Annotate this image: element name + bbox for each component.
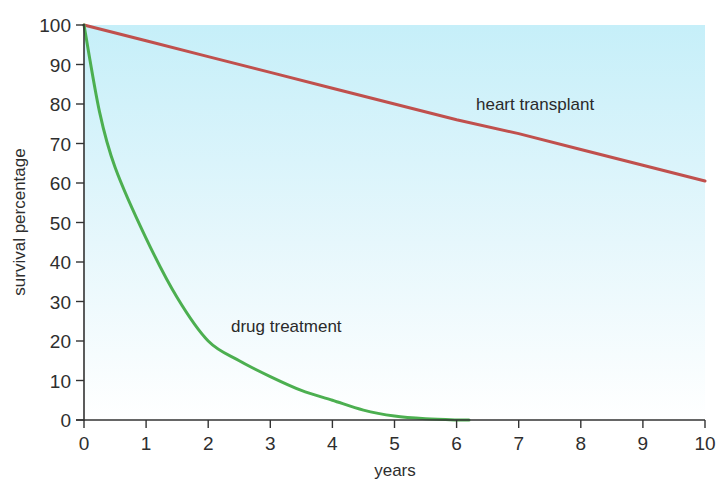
x-tick-label: 9 <box>638 433 649 454</box>
x-axis-title: years <box>374 461 416 480</box>
y-tick-label: 90 <box>50 55 71 76</box>
survival-chart: 0102030405060708090100012345678910 heart… <box>0 0 721 501</box>
y-tick-label: 60 <box>50 173 71 194</box>
x-tick-label: 5 <box>389 433 400 454</box>
y-axis-title: survival percentage <box>10 148 29 295</box>
y-tick-label: 50 <box>50 213 71 234</box>
x-tick-label: 1 <box>141 433 152 454</box>
x-tick-label: 3 <box>265 433 276 454</box>
y-tick-label: 0 <box>60 410 71 431</box>
drug-treatment-label: drug treatment <box>231 317 342 336</box>
x-tick-label: 7 <box>513 433 524 454</box>
y-tick-label: 70 <box>50 134 71 155</box>
y-tick-label: 30 <box>50 292 71 313</box>
heart-transplant-label: heart transplant <box>476 95 594 114</box>
y-tick-label: 40 <box>50 252 71 273</box>
y-tick-label: 10 <box>50 371 71 392</box>
y-tick-label: 100 <box>39 15 71 36</box>
y-tick-label: 80 <box>50 94 71 115</box>
x-tick-label: 0 <box>79 433 90 454</box>
x-tick-label: 6 <box>451 433 462 454</box>
x-tick-label: 4 <box>327 433 338 454</box>
x-tick-label: 8 <box>576 433 587 454</box>
x-tick-label: 2 <box>203 433 214 454</box>
plot-background <box>84 25 705 420</box>
x-tick-label: 10 <box>694 433 715 454</box>
y-tick-label: 20 <box>50 331 71 352</box>
